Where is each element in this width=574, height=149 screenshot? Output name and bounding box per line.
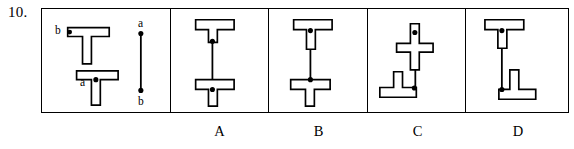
reference-drawing xyxy=(42,9,170,112)
option-a-stage xyxy=(171,9,269,112)
option-b-stage xyxy=(269,9,367,112)
option-c-bottom-point xyxy=(412,85,417,90)
panel-option-b[interactable] xyxy=(269,9,368,112)
option-d-drawing xyxy=(466,9,568,112)
option-a-top-tee xyxy=(195,20,233,43)
option-c-stage xyxy=(368,9,466,112)
panel-option-d[interactable] xyxy=(466,9,568,112)
option-d-stage xyxy=(466,9,568,112)
option-c-bottom-inverted-tee xyxy=(380,72,416,98)
ab-segment-endpoint-a xyxy=(138,31,143,36)
question-figure-root: 10. b a a b xyxy=(0,0,574,149)
answer-label-b[interactable]: B xyxy=(269,118,368,144)
reference-stage: b a a b xyxy=(42,9,170,112)
panel-option-a[interactable] xyxy=(171,9,270,112)
panel-option-c[interactable] xyxy=(368,9,467,112)
option-d-top-tee xyxy=(485,20,524,48)
segment-label-b: b xyxy=(138,96,144,108)
answer-label-d[interactable]: D xyxy=(467,118,569,144)
question-number: 10. xyxy=(8,4,27,21)
reference-label-b-upper: b xyxy=(55,25,61,37)
lower-tee-point-a xyxy=(93,77,98,82)
answer-label-spacer xyxy=(41,118,170,144)
figure-grid: b a a b xyxy=(41,8,569,113)
option-a-bottom-point xyxy=(209,87,214,92)
option-c-drawing xyxy=(368,9,466,112)
option-a-bottom-tee xyxy=(195,80,233,106)
option-b-bottom-point xyxy=(308,77,313,82)
option-a-drawing xyxy=(171,9,269,112)
answer-label-a[interactable]: A xyxy=(170,118,269,144)
upper-tee-shape xyxy=(68,28,110,64)
reference-label-a-lower: a xyxy=(80,77,85,89)
answer-labels-row: A B C D xyxy=(41,118,569,144)
segment-label-a: a xyxy=(138,18,143,30)
ab-segment-endpoint-b xyxy=(138,88,143,93)
option-d-bottom-inverted-tee xyxy=(499,70,536,99)
option-b-top-point xyxy=(308,28,313,33)
option-b-drawing xyxy=(269,9,367,112)
option-d-bottom-point xyxy=(500,87,505,92)
option-c-top-point xyxy=(412,30,417,35)
option-b-top-tee xyxy=(294,20,332,49)
option-d-top-point xyxy=(500,28,505,33)
answer-label-c[interactable]: C xyxy=(368,118,467,144)
option-a-top-point xyxy=(209,39,214,44)
upper-tee-point-b xyxy=(67,30,72,35)
option-b-bottom-tee xyxy=(291,80,330,106)
panel-reference: b a a b xyxy=(42,9,171,112)
